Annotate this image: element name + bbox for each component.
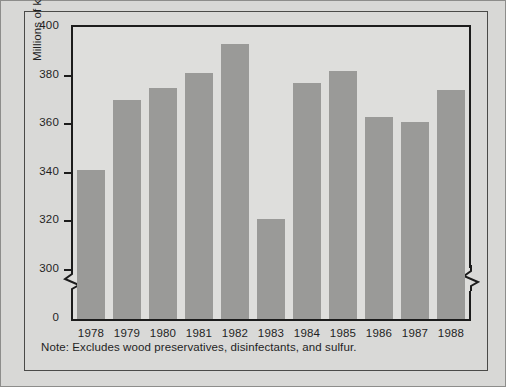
bar-slot bbox=[361, 27, 397, 319]
x-axis-tick-label-1988: 1988 bbox=[433, 327, 469, 339]
x-axis-tick-label-1981: 1981 bbox=[181, 327, 217, 339]
bar-slot bbox=[181, 27, 217, 319]
bar-slot bbox=[217, 27, 253, 319]
bar-1984[interactable] bbox=[293, 83, 320, 319]
y-axis-tick bbox=[64, 220, 71, 222]
y-axis-tick bbox=[64, 269, 71, 271]
bar-slot bbox=[289, 27, 325, 319]
y-axis-tick-label: 320 bbox=[19, 213, 59, 225]
y-axis-tick-label: 400 bbox=[19, 19, 59, 31]
x-axis-tick-label-1982: 1982 bbox=[217, 327, 253, 339]
bar-1979[interactable] bbox=[113, 100, 140, 319]
bar-1987[interactable] bbox=[401, 122, 428, 319]
plot-area: 0300320340360380400 19781979198019811982… bbox=[71, 25, 471, 321]
x-axis-tick-label-1987: 1987 bbox=[397, 327, 433, 339]
y-axis-tick bbox=[64, 172, 71, 174]
bar-1978[interactable] bbox=[77, 170, 104, 319]
x-axis-tick-label-1978: 1978 bbox=[73, 327, 109, 339]
y-axis-tick bbox=[64, 75, 71, 77]
bar-1988[interactable] bbox=[437, 90, 464, 319]
x-axis-tick-label-1985: 1985 bbox=[325, 327, 361, 339]
bar-1985[interactable] bbox=[329, 71, 356, 319]
x-axis-tick-label-1984: 1984 bbox=[289, 327, 325, 339]
x-axis-tick-label-1983: 1983 bbox=[253, 327, 289, 339]
bar-series bbox=[73, 27, 469, 319]
bar-1986[interactable] bbox=[365, 117, 392, 319]
y-axis-tick-label: 340 bbox=[19, 165, 59, 177]
x-axis-tick-label-1986: 1986 bbox=[361, 327, 397, 339]
y-axis-tick bbox=[64, 123, 71, 125]
bar-slot bbox=[397, 27, 433, 319]
bar-slot bbox=[433, 27, 469, 319]
x-axis-tick-label-1980: 1980 bbox=[145, 327, 181, 339]
x-axis-tick-label-1979: 1979 bbox=[109, 327, 145, 339]
y-axis-tick-label: 0 bbox=[19, 311, 59, 323]
axis-right-lower bbox=[469, 291, 471, 321]
y-axis-tick-label: 300 bbox=[19, 262, 59, 274]
y-axis-tick-label: 360 bbox=[19, 116, 59, 128]
bar-slot bbox=[325, 27, 361, 319]
bar-slot bbox=[109, 27, 145, 319]
bar-1981[interactable] bbox=[185, 73, 212, 319]
bar-slot bbox=[73, 27, 109, 319]
axis-bottom bbox=[71, 319, 471, 321]
bar-1983[interactable] bbox=[257, 219, 284, 319]
chart-figure: Millions of kg active ingredients 030032… bbox=[0, 0, 506, 387]
bar-1982[interactable] bbox=[221, 44, 248, 319]
bar-slot bbox=[253, 27, 289, 319]
chart-footnote: Note: Excludes wood preservatives, disin… bbox=[41, 341, 356, 353]
y-axis-tick-label: 380 bbox=[19, 68, 59, 80]
axis-right bbox=[469, 25, 471, 268]
bar-slot bbox=[145, 27, 181, 319]
bar-1980[interactable] bbox=[149, 88, 176, 319]
